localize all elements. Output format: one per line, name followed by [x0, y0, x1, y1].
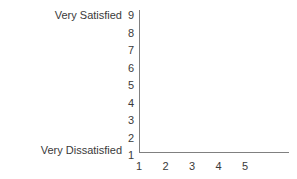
y-axis-tick-label: 7	[94, 45, 134, 56]
x-axis-line	[139, 152, 289, 153]
y-axis-tick-label: 5	[94, 80, 134, 91]
x-axis-tick-labels: 12345	[0, 161, 297, 177]
x-axis-tick-label: 5	[235, 161, 255, 172]
y-axis-tick-label: 8	[94, 28, 134, 39]
satisfaction-scale-chart: Very Satisfied Very Dissatisfied 9876543…	[0, 0, 297, 179]
y-axis-tick-label: 2	[94, 133, 134, 144]
y-axis-tick-label: 1	[94, 150, 134, 161]
x-axis-tick-label: 1	[129, 161, 149, 172]
x-axis-tick-label: 4	[209, 161, 229, 172]
y-axis-tick-labels: 987654321	[0, 0, 134, 179]
x-axis-tick-label: 3	[182, 161, 202, 172]
y-axis-tick-label: 4	[94, 98, 134, 109]
y-axis-tick-label: 6	[94, 63, 134, 74]
y-axis-tick-label: 3	[94, 115, 134, 126]
plot-area	[140, 10, 289, 152]
y-axis-tick-label: 9	[94, 10, 134, 21]
x-axis-tick-label: 2	[156, 161, 176, 172]
